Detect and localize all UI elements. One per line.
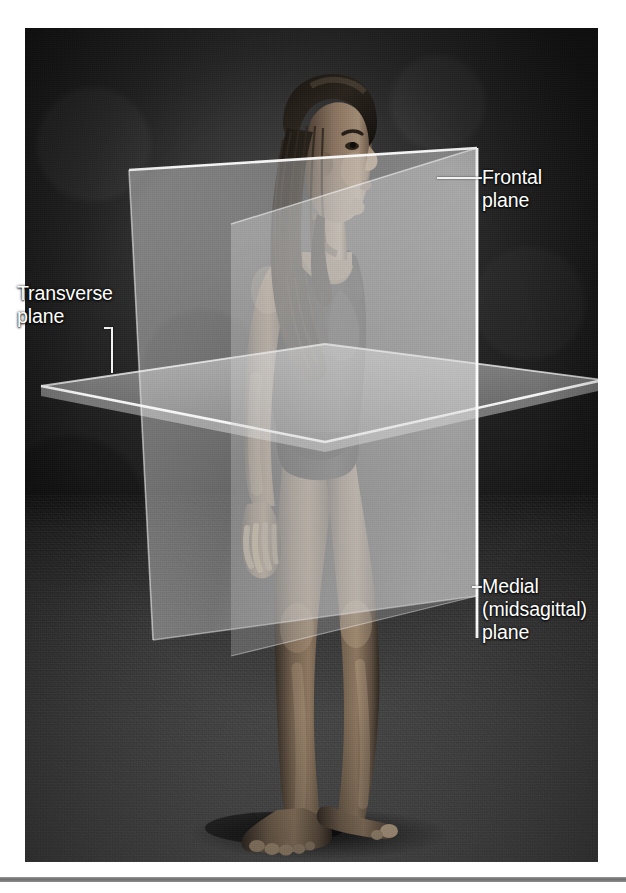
photograph xyxy=(25,28,598,862)
frontal-plane-leader-line xyxy=(437,177,482,179)
medial-plane-label: Medial (midsagittal) plane xyxy=(482,575,587,644)
transverse-plane-leader-line-vertical xyxy=(111,327,113,373)
anatomical-planes-figure: Frontal plane Transverse plane Medial (m… xyxy=(0,0,626,893)
medial-plane-leader-line xyxy=(472,586,482,588)
transverse-plane-label: Transverse plane xyxy=(17,282,113,328)
bottom-horizontal-rule xyxy=(0,877,626,882)
frontal-plane-label: Frontal plane xyxy=(482,166,542,212)
human-figure xyxy=(25,28,598,862)
